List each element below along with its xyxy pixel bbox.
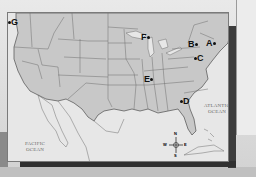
atlantic-ocean-label: ATLANTIC OCEAN: [202, 103, 229, 115]
marker-b[interactable]: B: [188, 40, 198, 49]
paper-edge: [236, 0, 256, 135]
marker-dot: [195, 43, 198, 46]
baja-california: [38, 95, 68, 147]
compass-north: N: [174, 131, 177, 136]
us-landmass: [14, 13, 229, 135]
table-surface: [0, 167, 256, 177]
cuba: [184, 145, 224, 155]
marker-f[interactable]: F: [141, 33, 150, 42]
compass-west: W: [163, 142, 167, 147]
compass-south: S: [174, 153, 177, 158]
bahamas: [204, 129, 214, 141]
compass-rose: N S E W: [166, 134, 186, 156]
marker-g[interactable]: G: [8, 18, 18, 27]
us-map: G F B A C E D ATLANTIC OCEAN PACIFIC OCE…: [7, 12, 229, 162]
frame-shadow-right: [228, 26, 236, 168]
marker-e[interactable]: E: [144, 75, 153, 84]
marker-dot: [213, 42, 216, 45]
marker-c[interactable]: C: [194, 54, 204, 63]
compass-east: E: [184, 142, 187, 147]
marker-a[interactable]: A: [206, 39, 216, 48]
us-map-outline: [8, 13, 229, 162]
marker-dot: [147, 36, 150, 39]
marker-d[interactable]: D: [180, 97, 190, 106]
gulf-coast-mexico: [94, 119, 124, 133]
marker-dot: [150, 78, 153, 81]
pacific-ocean-label: PACIFIC OCEAN: [20, 141, 50, 153]
